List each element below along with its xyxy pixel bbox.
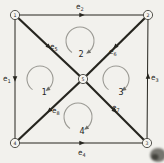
region-label-3: 3 bbox=[118, 87, 123, 97]
region-label-4: 4 bbox=[79, 126, 84, 136]
region-label-2: 2 bbox=[78, 49, 83, 59]
graph-svg: 1234e1e2e3e4e5e6e7e812345 bbox=[0, 0, 164, 163]
vertex-label-2: 2 bbox=[147, 13, 150, 18]
vertex-label-1: 1 bbox=[14, 13, 17, 18]
vertex-label-4: 4 bbox=[14, 141, 17, 146]
vertex-label-5: 5 bbox=[82, 77, 85, 82]
vertex-label-3: 3 bbox=[146, 141, 149, 146]
region-label-1: 1 bbox=[41, 87, 46, 97]
graph-figure: 1234e1e2e3e4e5e6e7e812345 bbox=[0, 0, 164, 163]
scan-artifact-dot bbox=[152, 154, 159, 160]
